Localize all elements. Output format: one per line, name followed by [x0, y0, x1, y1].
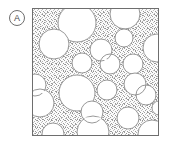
micrograph-image: [32, 8, 159, 136]
circled-letter-icon: A: [9, 10, 25, 26]
pore-circle: [115, 29, 133, 47]
figure-panel-a: A: [0, 0, 170, 143]
micrograph-svg: [32, 8, 159, 136]
pore-circle: [117, 107, 139, 129]
pore-circle: [72, 53, 92, 73]
pore-circle: [39, 29, 69, 59]
panel-label-text: A: [14, 14, 20, 23]
pore-circle: [97, 80, 117, 100]
pore-circle: [123, 54, 143, 74]
